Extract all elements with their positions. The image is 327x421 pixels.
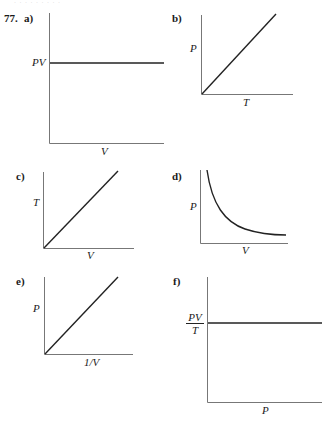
panel-d-label: d) [172, 170, 182, 182]
panel-c-curve [44, 171, 118, 248]
panel-d-curve [207, 170, 286, 235]
panel-a-xlabel: V [101, 145, 108, 157]
panel-c-ylabel: T [33, 196, 39, 208]
problem-number: 77. [4, 12, 18, 24]
panel-c-xlabel: V [87, 249, 94, 261]
panel-f-xlabel: P [262, 404, 269, 416]
panel-d-xlabel: V [242, 244, 249, 256]
panel-e-ylabel: P [33, 302, 40, 314]
panel-e-xlabel: 1/V [84, 356, 99, 368]
panel-c-label: c) [16, 170, 25, 182]
panel-b-curve [202, 14, 276, 94]
panel-f-ylabel: PV T [186, 311, 204, 336]
panel-f-label: f) [173, 275, 180, 287]
figure-canvas [0, 0, 327, 421]
panel-e-label: e) [16, 275, 25, 287]
panel-f-ylabel-denominator: T [186, 324, 204, 336]
panel-b-xlabel: T [243, 96, 249, 108]
panel-e-curve [45, 277, 118, 354]
panel-b-ylabel: P [190, 42, 197, 54]
panel-a-ylabel: PV [32, 56, 45, 68]
panel-d-ylabel: P [190, 200, 197, 212]
panel-a-label: a) [24, 12, 33, 24]
panel-b-label: b) [172, 12, 182, 24]
panel-f-ylabel-numerator: PV [186, 311, 204, 324]
